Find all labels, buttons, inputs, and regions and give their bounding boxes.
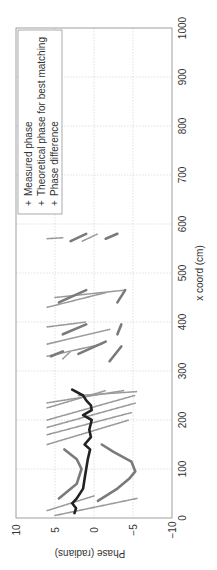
x-tick-label: 100 bbox=[177, 460, 188, 477]
series-1-segment bbox=[98, 445, 135, 501]
series-1-segment bbox=[59, 449, 82, 498]
x-axis-ticks: 01002003004005006007008009001000 bbox=[177, 16, 188, 520]
legend-entry: Phase difference bbox=[49, 121, 60, 196]
x-tick-label: 800 bbox=[177, 117, 188, 134]
svg-text:+: + bbox=[36, 200, 47, 206]
x-tick-label: 1000 bbox=[177, 16, 188, 39]
x-tick-label: 0 bbox=[177, 515, 188, 521]
y-tick-label: 0 bbox=[89, 527, 100, 533]
series-1-segment bbox=[117, 290, 125, 302]
y-tick-label: 5 bbox=[50, 527, 61, 533]
series-0-segment bbox=[47, 238, 63, 239]
x-tick-label: 700 bbox=[177, 166, 188, 183]
x-tick-label: 200 bbox=[177, 411, 188, 428]
series-0-segment bbox=[78, 392, 136, 396]
x-tick-label: 400 bbox=[177, 313, 188, 330]
x-axis-label: x coord (cm) bbox=[194, 245, 205, 301]
series-0-segment bbox=[55, 498, 137, 515]
x-tick-label: 500 bbox=[177, 264, 188, 281]
svg-text:+: + bbox=[23, 200, 34, 206]
x-tick-label: 300 bbox=[177, 362, 188, 379]
y-tick-label: 10 bbox=[11, 524, 22, 536]
series-1-segment bbox=[117, 324, 121, 334]
legend-entry: Theoretical phase for best matching bbox=[36, 37, 47, 196]
series-1-segment bbox=[106, 234, 118, 239]
y-axis-label: Phase (radians) bbox=[55, 548, 126, 559]
series-0-segment bbox=[47, 329, 109, 344]
y-tick-label: −5 bbox=[128, 524, 139, 536]
y-tick-label: −10 bbox=[167, 521, 178, 538]
data-series bbox=[47, 234, 137, 516]
svg-text:+: + bbox=[49, 200, 60, 206]
series-1-segment bbox=[110, 347, 122, 362]
y-axis-ticks: 1050−5−10 bbox=[11, 521, 178, 538]
x-tick-label: 900 bbox=[177, 68, 188, 85]
series-1-segment bbox=[63, 324, 86, 334]
phase-chart: +Measured phase+Theoretical phase for be… bbox=[0, 0, 217, 570]
legend-entry: Measured phase bbox=[23, 121, 34, 196]
legend: +Measured phase+Theoretical phase for be… bbox=[18, 30, 62, 214]
x-tick-label: 600 bbox=[177, 215, 188, 232]
